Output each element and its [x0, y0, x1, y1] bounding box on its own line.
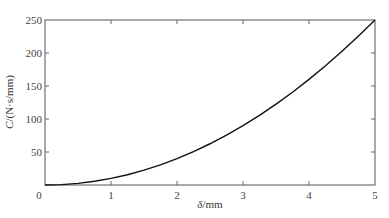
data-series	[45, 20, 375, 185]
y-tick-labels: 50100150200250	[26, 14, 43, 158]
x-tick-label: 0	[36, 189, 42, 201]
x-tick-label: 1	[108, 189, 114, 201]
y-tick-label: 250	[26, 14, 43, 26]
y-tick-label: 50	[31, 146, 43, 158]
series-line	[45, 20, 375, 185]
x-tick-label: 4	[306, 189, 312, 201]
y-tick-label: 200	[26, 47, 43, 59]
y-axis-title: C/(N·s/mm)	[3, 75, 16, 129]
plot-border	[45, 20, 375, 185]
y-tick-label: 100	[26, 113, 43, 125]
axis-ticks	[45, 20, 375, 185]
x-axis-title: δ/mm	[197, 198, 223, 210]
x-tick-label: 3	[240, 189, 246, 201]
x-tick-label: 5	[372, 189, 378, 201]
damping-coefficient-chart: 012345 50100150200250 δ/mm C/(N·s/mm)	[0, 0, 389, 218]
y-tick-label: 150	[26, 80, 43, 92]
plot-frame	[45, 20, 375, 185]
x-tick-label: 2	[174, 189, 180, 201]
